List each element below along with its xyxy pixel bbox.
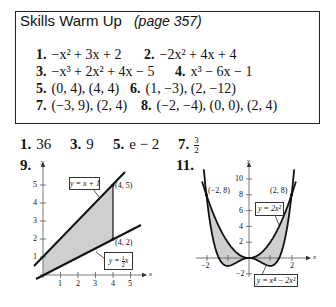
answer-7: 7.32 [178,136,199,155]
item-number: 7. [36,98,47,113]
y-tick: 5 [33,180,37,189]
y-tick: 4 [239,222,243,231]
curve-y-equals-x4-minus-2x2 [204,169,294,266]
answer-5: 5.e − 2 [113,136,159,153]
answer-3: 3.9 [70,136,94,153]
item-number: 6. [130,81,141,96]
point-label: (4, 5) [115,181,132,190]
warmup-item-6: 6.(1, −3), (2, −12) [130,81,236,97]
warmup-item-4: 4.x³ − 6x − 1 [175,64,253,80]
answer-text: e − 2 [129,136,159,152]
item-text: −2x² + 4x + 4 [160,47,237,62]
answer-number: 7. [178,136,189,152]
label-suffix: x [125,256,129,265]
equation-label: y = 2x² [255,202,284,216]
item-text: (0, 4), (4, 4) [52,81,120,96]
y-tick: 2 [239,237,243,246]
item-text: −x³ + 2x² + 4x − 5 [52,64,155,79]
item-text: (1, −3), (2, −12) [146,81,236,96]
page-reference: (page 357) [134,13,202,29]
item-text: (−3, 9), (2, 4) [52,98,128,113]
point-label: (4, 2) [115,238,132,247]
y-tick: 2 [33,234,37,243]
fraction: 32 [194,136,199,155]
x-tick: 3 [93,279,97,288]
shaded-region [43,185,113,275]
x-tick: −2 [201,261,210,270]
y-axis-label: y [41,158,44,166]
item-number: 1. [36,47,47,62]
equation-label: y = 12x [104,252,133,270]
item-number: 4. [175,64,186,79]
x-axis-label: x [313,253,316,261]
item-number: 2. [144,47,155,62]
answer-number: 1. [20,136,31,152]
title-text: Skills Warm Up [20,12,122,29]
y-tick: 1 [33,252,37,261]
denominator: 2 [194,145,199,155]
figure-9-label: 9. [20,157,31,174]
y-tick: −2 [236,269,245,278]
y-tick: 4 [33,198,37,207]
item-number: 8. [141,98,152,113]
warmup-item-8: 8.(−2, −4), (0, 0), (2, 4) [141,98,277,114]
warmup-item-1: 1.−x² + 3x + 2 [36,47,121,63]
item-text: x³ − 6x − 1 [191,64,253,79]
label-prefix: y = [109,256,122,265]
x-tick: 2 [76,279,80,288]
numerator: 3 [194,136,199,145]
warmup-item-3: 3.−x³ + 2x² + 4x − 5 [36,64,154,80]
answer-text: 36 [36,136,51,152]
answer-1: 1.36 [20,136,51,153]
equation-label: y = x + 1 [69,177,100,190]
skills-warm-up-title: Skills Warm Up(page 357) [20,12,202,29]
x-axis-label: x [149,270,152,278]
x-tick: 4 [111,279,115,288]
x-tick: 5 [128,279,132,288]
y-tick: 6 [239,206,243,215]
warmup-item-5: 5.(0, 4), (4, 4) [36,81,119,97]
answer-text: 9 [86,136,94,152]
point-label: (2, 8) [270,186,287,195]
warmup-item-7: 7.(−3, 9), (2, 4) [36,98,127,114]
figure-11-label: 11. [176,157,194,174]
equation-label: y = x⁴ − 2x² [254,274,298,287]
y-axis-label: y [247,157,250,165]
item-number: 5. [36,81,47,96]
x-tick: 2 [290,261,294,270]
y-tick: 3 [33,216,37,225]
item-text: −x² + 3x + 2 [52,47,122,62]
answer-number: 5. [113,136,124,152]
item-text: (−2, −4), (0, 0), (2, 4) [157,98,278,113]
y-tick: 8 [239,190,243,199]
y-tick: 10 [235,174,243,183]
x-tick: 1 [58,279,62,288]
point-label: (−2, 8) [208,186,230,195]
answer-number: 3. [70,136,81,152]
item-number: 3. [36,64,47,79]
warmup-item-2: 2.−2x² + 4x + 4 [144,47,236,63]
